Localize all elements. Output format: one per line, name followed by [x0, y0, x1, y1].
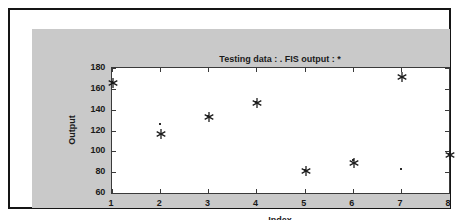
x-tick-mark [160, 189, 161, 193]
x-tick-mark [256, 189, 257, 193]
x-tick-mark-top [160, 68, 161, 72]
y-tick-mark [112, 172, 116, 173]
x-tick-mark-top [112, 68, 113, 72]
y-tick-mark [112, 131, 116, 132]
x-tick-label: 4 [253, 198, 258, 208]
figure-outer-frame: Testing data : . FIS output : * Output I… [8, 8, 451, 209]
testing-data-marker [400, 168, 402, 170]
y-tick-mark [112, 151, 116, 152]
x-tick-label: 5 [301, 198, 306, 208]
screenshot-root: Testing data : . FIS output : * Output I… [0, 0, 463, 220]
fis-output-marker [445, 150, 454, 159]
y-tick-mark [112, 89, 116, 90]
x-tick-mark-top [208, 68, 209, 72]
y-tick-label: 140 [91, 104, 105, 114]
y-tick-label: 120 [91, 125, 105, 135]
y-tick-mark-right [445, 193, 449, 194]
fis-output-marker [252, 98, 261, 107]
y-tick-mark-right [445, 89, 449, 90]
testing-data-marker [159, 123, 161, 125]
x-tick-label: 3 [205, 198, 210, 208]
y-tick-label: 180 [91, 62, 105, 72]
plot-axes-box [111, 67, 450, 194]
x-tick-mark-top [305, 68, 306, 72]
y-tick-mark-right [445, 110, 449, 111]
matlab-figure-canvas: Testing data : . FIS output : * Output I… [32, 29, 450, 208]
y-tick-label: 80 [95, 166, 105, 176]
x-tick-mark [305, 189, 306, 193]
x-tick-label: 2 [157, 198, 162, 208]
x-tick-mark-top [353, 68, 354, 72]
y-tick-mark [112, 193, 116, 194]
x-tick-label: 6 [349, 198, 354, 208]
x-tick-mark [112, 189, 113, 193]
fis-output-marker [156, 128, 165, 137]
x-tick-label: 7 [397, 198, 402, 208]
y-tick-label: 60 [95, 187, 105, 197]
fis-output-marker [396, 72, 405, 81]
y-tick-label: 160 [91, 83, 105, 93]
x-axis-title: Index [268, 215, 292, 220]
plot-title: Testing data : . FIS output : * [219, 54, 340, 64]
fis-output-marker [348, 157, 357, 166]
fis-output-marker [204, 111, 213, 120]
x-tick-mark [208, 189, 209, 193]
x-tick-mark-top [449, 68, 450, 72]
y-tick-mark-right [445, 131, 449, 132]
x-tick-label: 8 [446, 198, 451, 208]
x-tick-mark [401, 189, 402, 193]
y-tick-mark [112, 110, 116, 111]
y-tick-label: 100 [91, 145, 105, 155]
fis-output-marker [300, 166, 309, 175]
y-tick-mark-right [445, 172, 449, 173]
x-tick-mark [449, 189, 450, 193]
x-tick-label: 1 [109, 198, 114, 208]
y-axis-title: Output [67, 115, 77, 145]
x-tick-mark-top [256, 68, 257, 72]
fis-output-marker [108, 77, 117, 86]
x-tick-mark [353, 189, 354, 193]
